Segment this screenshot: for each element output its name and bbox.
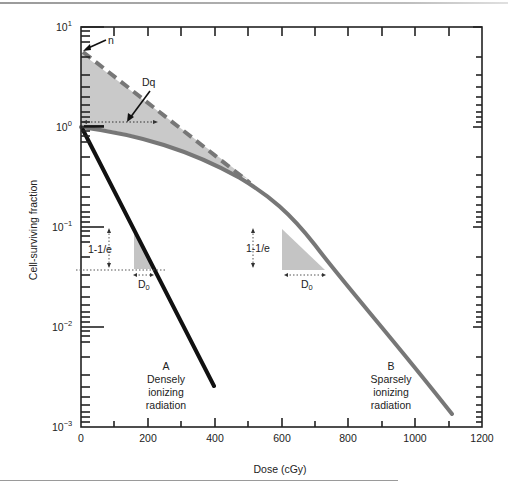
x-tick-labels: 0 200 400 600 800 1000 1200 [78, 432, 494, 444]
curve-b-line3: radiation [371, 399, 411, 411]
curve-b-label: B Sparsely ionizing radiation [371, 360, 413, 411]
x-tick-1200: 1200 [470, 432, 494, 444]
a-1-1e-label: 1-1/e [88, 243, 112, 255]
dq-label: Dq [142, 76, 156, 88]
curve-b-letter: B [387, 360, 394, 372]
b-d0-right-arrow-icon [322, 273, 326, 277]
y-tick-10-0: 100 [56, 119, 72, 133]
n-arrowhead-icon [83, 44, 91, 51]
curve-b-line2: ionizing [373, 386, 409, 398]
y-tick-10-m1: 10−1 [52, 219, 72, 233]
curve-a-line1: Densely [147, 373, 186, 385]
x-axis-title: Dose (cGy) [253, 463, 306, 475]
a-e-up-arrow-icon [107, 228, 111, 233]
survival-curve-chart: 0 200 400 600 800 1000 1200 101 100 10−1… [0, 0, 514, 491]
a-d0-label: D0 [138, 278, 150, 292]
y-tick-10-1: 101 [56, 19, 72, 33]
curve-a-line3: radiation [146, 399, 186, 411]
curve-a-line [83, 130, 214, 386]
a-e-down-arrow-icon [107, 263, 111, 268]
y-axis-title: Cell-surviving fraction [27, 180, 39, 281]
x-tick-0: 0 [78, 432, 84, 444]
x-tick-400: 400 [206, 432, 224, 444]
b-e-down-arrow-icon [251, 263, 255, 268]
x-tick-800: 800 [339, 432, 357, 444]
n-label: n [108, 34, 114, 46]
y-tick-10-m2: 10−2 [52, 319, 72, 333]
x-tick-1000: 1000 [403, 432, 427, 444]
b-e-up-arrow-icon [251, 228, 255, 233]
a-d0-right-arrow-icon [150, 273, 154, 277]
y-axis-right-ticks [473, 27, 482, 422]
b-1-1e-label: 1-1/e [246, 242, 270, 254]
y-tick-10-m3: 10−3 [52, 419, 72, 433]
x-tick-200: 200 [139, 432, 157, 444]
curve-a-letter: A [162, 360, 169, 372]
x-tick-600: 600 [273, 432, 291, 444]
y-tick-labels: 101 100 10−1 10−2 10−3 [52, 19, 72, 433]
curve-a-label: A Densely ionizing radiation [146, 360, 186, 411]
curve-a-line2: ionizing [148, 386, 184, 398]
b-d0-left-arrow-icon [284, 273, 288, 277]
a-d0-left-arrow-icon [133, 273, 137, 277]
curve-b-line1: Sparsely [371, 373, 413, 385]
b-d0-label: D0 [301, 278, 313, 292]
